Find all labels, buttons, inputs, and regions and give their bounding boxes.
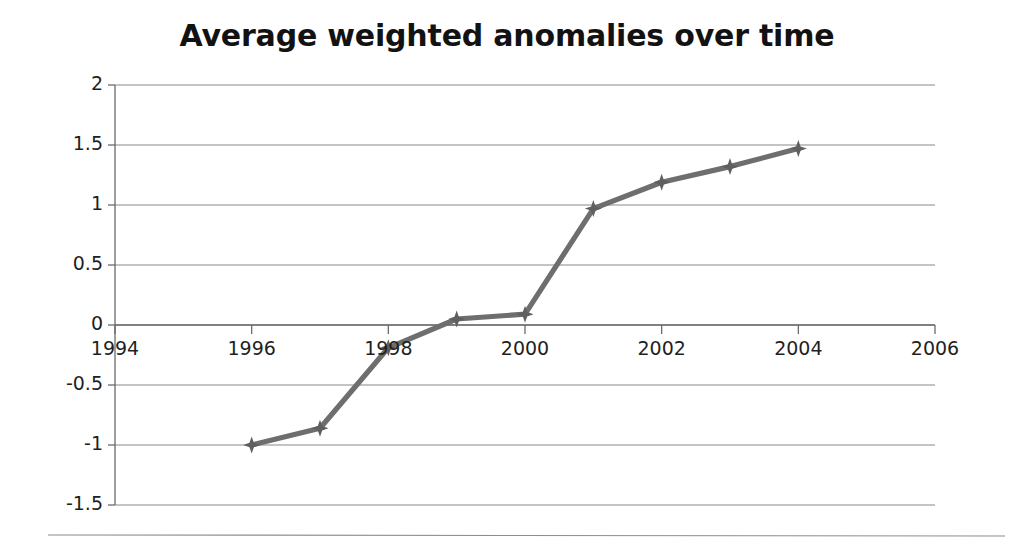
- data-point-markers: [243, 140, 807, 453]
- page-divider: [48, 535, 1005, 536]
- y-axis-tick-label: 2: [20, 72, 103, 94]
- x-axis-tick-label: 2006: [890, 337, 980, 359]
- gridlines: [115, 85, 935, 505]
- data-point-marker: [790, 140, 807, 157]
- data-point-marker: [722, 158, 739, 175]
- chart-container: Average weighted anomalies over time 21.…: [0, 0, 1014, 560]
- x-axis-tick-label: 1996: [207, 337, 297, 359]
- chart-plot-area: [0, 0, 1014, 560]
- x-axis-tick-label: 2000: [480, 337, 570, 359]
- data-point-marker: [243, 437, 260, 454]
- y-axis-ticks: [108, 85, 115, 505]
- x-axis-ticks: [115, 325, 935, 334]
- footer-divider: [48, 535, 1005, 536]
- data-point-marker: [653, 174, 670, 191]
- data-series-line: [252, 149, 799, 445]
- y-axis-tick-label: -1: [20, 432, 103, 454]
- x-axis-tick-label: 2002: [617, 337, 707, 359]
- y-axis-tick-label: 1: [20, 192, 103, 214]
- y-axis-tick-label: 0: [20, 312, 103, 334]
- axis-lines: [115, 85, 935, 505]
- y-axis-tick-label: -0.5: [20, 372, 103, 394]
- x-axis-tick-label: 2004: [753, 337, 843, 359]
- y-axis-tick-label: 1.5: [20, 132, 103, 154]
- x-axis-tick-label: 1998: [343, 337, 433, 359]
- x-axis-tick-label: 1994: [70, 337, 160, 359]
- y-axis-tick-label: 0.5: [20, 252, 103, 274]
- y-axis-tick-label: -1.5: [20, 492, 103, 514]
- series-line: [252, 149, 799, 445]
